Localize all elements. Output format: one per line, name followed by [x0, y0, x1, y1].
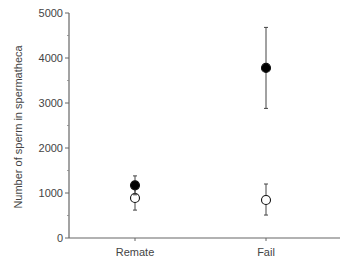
filled-circle-icon: [262, 63, 271, 72]
x-tick-label: Fail: [257, 246, 275, 258]
y-tick-label: 1000: [39, 187, 63, 199]
y-axis-ticks: 010002000300040005000: [39, 7, 69, 244]
x-tick-label: Remate: [116, 246, 155, 258]
filled-circle-icon: [131, 181, 140, 190]
data-points: [131, 27, 271, 215]
y-tick-label: 4000: [39, 52, 63, 64]
y-tick-label: 3000: [39, 97, 63, 109]
data-point-filled: [131, 176, 140, 195]
y-tick-label: 2000: [39, 142, 63, 154]
y-tick-label: 5000: [39, 7, 63, 19]
chart: 010002000300040005000 RemateFail Number …: [0, 0, 343, 266]
y-tick-label: 0: [57, 232, 63, 244]
data-point-filled: [262, 27, 271, 108]
open-circle-icon: [262, 195, 271, 204]
axes: [69, 13, 340, 238]
y-axis-title: Number of sperm in spermatheca: [12, 45, 24, 209]
x-axis-ticks: RemateFail: [116, 238, 275, 258]
data-point-open: [262, 184, 271, 215]
